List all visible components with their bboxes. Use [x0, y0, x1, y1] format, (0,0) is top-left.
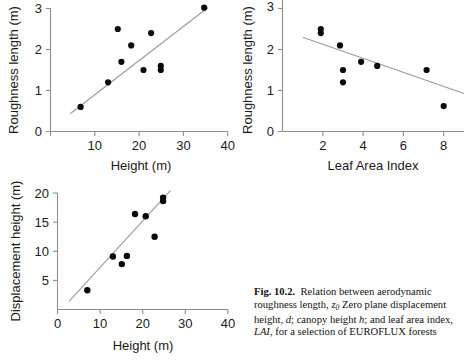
plot-area-displacement-vs-height: 5 10 15 20 0 10 20 30 40 Height (m) Disp… — [0, 176, 236, 362]
y-tick-label: 20 — [35, 186, 49, 201]
data-point — [340, 67, 346, 73]
data-point — [118, 59, 124, 65]
data-point — [128, 42, 134, 48]
data-point — [151, 234, 157, 240]
plot-area-roughness-vs-height: 0 1 2 3 10 20 30 40 Height (m) Roughness… — [0, 0, 236, 181]
trend-line — [70, 8, 207, 114]
y-tick-label: 2 — [267, 42, 274, 57]
data-point — [124, 253, 130, 259]
data-point — [140, 67, 146, 73]
data-point — [318, 30, 324, 36]
x-tick-label: 40 — [221, 316, 235, 331]
data-points — [78, 5, 208, 110]
data-point — [143, 213, 149, 219]
x-tick-label: 8 — [440, 138, 447, 153]
x-tick-label: 20 — [132, 138, 146, 153]
x-tick-label: 30 — [178, 316, 192, 331]
data-point — [374, 63, 380, 69]
x-tick-label: 30 — [176, 138, 190, 153]
chart-displacement-vs-height: 5 10 15 20 0 10 20 30 40 Height (m) Disp… — [0, 176, 236, 362]
data-point — [115, 26, 121, 32]
data-point — [158, 67, 164, 73]
data-points — [318, 26, 447, 109]
y-tick-label: 10 — [35, 244, 49, 259]
data-point — [358, 59, 364, 65]
x-axis-title: Height (m) — [113, 338, 174, 353]
x-axis-title: Height (m) — [111, 158, 172, 173]
figure-label: Fig. 10.2. — [254, 286, 295, 297]
x-tick-label: 20 — [135, 316, 149, 331]
caption-part-5: , for a selection of EUROFLUX forests — [270, 326, 437, 337]
trend-line — [303, 37, 464, 93]
y-tick-label: 1 — [35, 83, 42, 98]
data-point — [105, 79, 111, 85]
caption-part-3: ; canopy height — [291, 314, 359, 325]
x-tick-label: 0 — [54, 316, 61, 331]
data-point — [119, 261, 125, 267]
x-tick-label: 2 — [319, 138, 326, 153]
caption-symbol-lai: LAI — [254, 326, 270, 337]
chart-roughness-vs-lai: 0 1 2 3 2 4 6 8 Leaf Area Index Roughnes… — [236, 0, 472, 181]
plot-area-roughness-vs-lai: 0 1 2 3 2 4 6 8 Leaf Area Index Roughnes… — [236, 0, 472, 181]
y-axis-title: Roughness length (m) — [240, 6, 255, 134]
y-tick-label: 2 — [35, 42, 42, 57]
y-tick-label: 3 — [267, 0, 274, 14]
y-tick-label: 0 — [35, 124, 42, 139]
trend-line — [69, 191, 170, 302]
chart-roughness-vs-height: 0 1 2 3 10 20 30 40 Height (m) Roughness… — [0, 0, 236, 181]
data-point — [201, 5, 207, 11]
figure-caption: Fig. 10.2. Relation between aerodynamic … — [254, 286, 468, 339]
data-point — [160, 198, 166, 204]
data-point — [110, 253, 116, 259]
y-tick-label: 0 — [267, 124, 274, 139]
data-point — [424, 67, 430, 73]
data-point — [132, 211, 138, 217]
y-tick-label: 15 — [35, 215, 49, 230]
y-axis-title: Displacement height (m) — [8, 181, 23, 322]
y-tick-label: 3 — [35, 1, 42, 16]
y-tick-label: 1 — [267, 83, 274, 98]
caption-part-4: ; and leaf area index, — [364, 314, 453, 325]
data-point — [84, 287, 90, 293]
y-tick-label: 5 — [42, 273, 49, 288]
data-point — [441, 103, 447, 109]
data-point — [340, 79, 346, 85]
x-tick-label: 4 — [359, 138, 366, 153]
data-point — [78, 104, 84, 110]
x-axis-title: Leaf Area Index — [327, 158, 419, 173]
x-tick-label: 40 — [220, 138, 234, 153]
figure-label-text: Fig. 10.2. — [254, 286, 295, 297]
data-point — [148, 30, 154, 36]
y-axis-title: Roughness length (m) — [6, 6, 21, 134]
data-point — [337, 42, 343, 48]
x-tick-label: 6 — [400, 138, 407, 153]
x-tick-label: 10 — [93, 316, 107, 331]
x-tick-label: 10 — [88, 138, 102, 153]
